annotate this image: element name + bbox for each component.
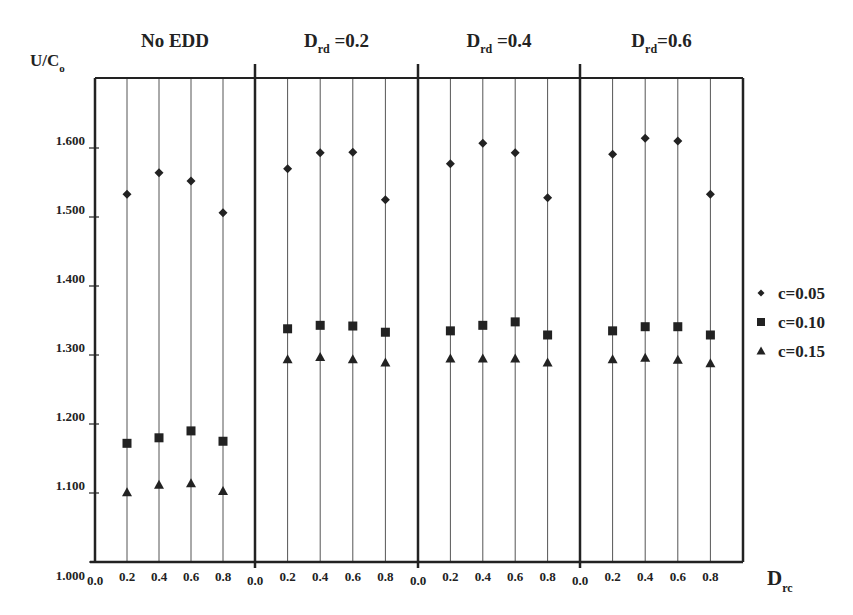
triangle-marker (640, 353, 650, 362)
y-tick-label: 1.400 (56, 271, 85, 286)
x-tick-label: 0.6 (183, 569, 200, 584)
triangle-marker (608, 354, 618, 363)
panel-title: No EDD (141, 30, 209, 51)
x-tick-label: 0.4 (151, 569, 168, 584)
diamond-marker (381, 195, 390, 204)
legend-label: c=0.05 (778, 284, 825, 303)
diamond-marker (706, 190, 715, 199)
x-tick-label: 0.4 (475, 569, 492, 584)
x-tick-label: 0.6 (507, 569, 524, 584)
y-tick-label: 1.300 (56, 340, 85, 355)
diamond-marker (478, 139, 487, 148)
diamond-marker (511, 148, 520, 157)
triangle-marker (543, 358, 553, 367)
x-tick-label: 0.4 (312, 569, 329, 584)
x-tick-label: 0.0 (572, 573, 588, 588)
x-tick-label: 0.4 (637, 569, 654, 584)
square-marker (446, 326, 455, 335)
square-marker (381, 328, 390, 337)
square-marker (757, 318, 765, 326)
x-tick-label: 0.0 (410, 573, 426, 588)
triangle-marker (218, 486, 228, 495)
legend: c=0.05c=0.10c=0.15 (757, 284, 825, 361)
square-marker (706, 330, 715, 339)
diamond-marker (446, 159, 455, 168)
x-tick-label: 0.2 (279, 569, 295, 584)
diamond-marker (543, 193, 552, 202)
panel-title: Drd=0.6 (631, 30, 691, 56)
square-marker (478, 321, 487, 330)
square-marker (608, 326, 617, 335)
y-axis-ticks: 1.0001.1001.2001.3001.4001.5001.600 (56, 133, 99, 583)
x-tick-label: 0.2 (119, 569, 135, 584)
x-tick-label: 0.2 (442, 569, 458, 584)
diamond-marker (608, 150, 617, 159)
panel-titles: No EDDDrd =0.2Drd =0.4Drd=0.6 (141, 30, 692, 56)
triangle-marker (705, 358, 715, 367)
diamond-marker (283, 164, 292, 173)
x-tick-label: 0.0 (247, 573, 263, 588)
legend-label: c=0.15 (778, 342, 825, 361)
triangle-marker (122, 487, 132, 496)
square-marker (543, 330, 552, 339)
square-marker (641, 322, 650, 331)
triangle-marker (315, 352, 325, 361)
square-marker (155, 433, 164, 442)
panel-title: Drd =0.2 (304, 30, 369, 56)
diamond-marker (673, 137, 682, 146)
x-tick-label: 0.8 (215, 569, 232, 584)
y-tick-label: 1.600 (56, 133, 85, 148)
x-axis-label: Drc (767, 566, 793, 595)
square-marker (187, 426, 196, 435)
diamond-marker (219, 208, 228, 217)
y-tick-label: 1.100 (56, 478, 85, 493)
x-tick-label: 0.8 (377, 569, 394, 584)
legend-item: c=0.10 (757, 313, 825, 332)
y-tick-label: 1.500 (56, 202, 85, 217)
square-marker (219, 437, 228, 446)
triangle-marker (348, 354, 358, 363)
legend-item: c=0.15 (757, 342, 825, 361)
triangle-marker (283, 354, 293, 363)
x-tick-label: 0.2 (604, 569, 620, 584)
square-marker (123, 439, 132, 448)
triangle-marker (510, 353, 520, 362)
diamond-marker (348, 148, 357, 157)
x-tick-label: 0.8 (539, 569, 556, 584)
diamond-marker (758, 290, 765, 297)
diamond-marker (187, 177, 196, 186)
square-marker (348, 322, 357, 331)
legend-item: c=0.05 (758, 284, 825, 303)
panel-title: Drd =0.4 (466, 30, 532, 56)
diamond-marker (123, 190, 132, 199)
x-tick-label: 0.8 (702, 569, 719, 584)
x-axis-ticks: 0.00.20.40.60.80.00.20.40.60.80.00.20.40… (87, 569, 719, 588)
triangle-marker (673, 355, 683, 364)
square-marker (673, 322, 682, 331)
triangle-marker (478, 353, 488, 362)
x-tick-label: 0.6 (670, 569, 687, 584)
legend-label: c=0.10 (778, 313, 825, 332)
x-tick-label: 0.0 (87, 573, 103, 588)
triangle-marker (186, 478, 196, 487)
triangle-marker (154, 480, 164, 489)
square-marker (283, 324, 292, 333)
y-axis-label: U/Co (30, 51, 65, 74)
diamond-marker (316, 148, 325, 157)
diamond-marker (641, 134, 650, 143)
square-marker (316, 321, 325, 330)
triangle-marker (445, 353, 455, 362)
square-marker (511, 317, 520, 326)
triangle-marker (380, 358, 390, 367)
diamond-marker (155, 168, 164, 177)
chart-canvas: U/Co 1.0001.1001.2001.3001.4001.5001.600… (0, 0, 853, 615)
y-tick-label: 1.200 (56, 409, 85, 424)
triangle-marker (757, 347, 766, 355)
y-tick-label: 1.000 (56, 568, 85, 583)
x-tick-label: 0.6 (345, 569, 362, 584)
